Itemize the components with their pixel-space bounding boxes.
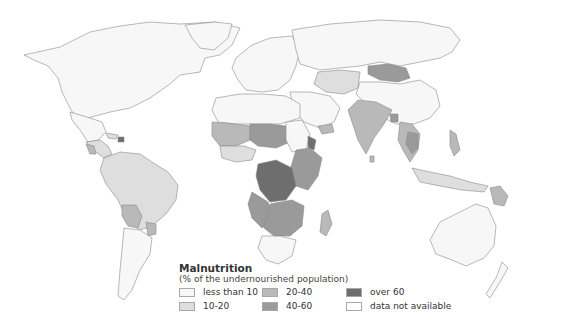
legend-swatch [346,302,362,311]
region-india [348,100,392,154]
region-papua-new-guinea [490,186,508,206]
region-indonesia [412,168,488,192]
region-central-africa [256,160,296,202]
region-haiti [118,137,124,142]
legend-items: less than 10 10-20 20-40 40-60 over 60 d… [179,287,509,327]
legend-item-20-40: 20-40 [262,287,312,297]
legend-item-40-60: 40-60 [262,301,312,311]
legend-item-10-20: 10-20 [179,301,229,311]
legend-label: over 60 [370,287,404,297]
region-australia [430,204,496,266]
region-chad-niger [250,124,290,148]
region-philippines [450,130,460,156]
region-yemen [318,124,334,134]
region-paraguay [146,222,156,236]
legend-title: Malnutrition [179,262,348,274]
region-west-africa-coast [220,146,256,162]
region-madagascar [320,210,332,236]
region-sahel [212,122,250,146]
legend-swatch [262,288,278,297]
legend-swatch [262,302,278,311]
legend-label: 20-40 [286,287,312,297]
legend-label: data not available [370,301,451,311]
region-central-asia [314,70,360,94]
legend-subtitle: (% of the undernourished population) [179,274,348,285]
region-southern-cone [118,228,152,300]
region-southern-africa [264,200,304,236]
legend-item-less-than-10: less than 10 [179,287,258,297]
legend-swatch [346,288,362,297]
region-mongolia [368,64,410,82]
legend-label: less than 10 [203,287,258,297]
region-russia [292,20,460,70]
region-bangladesh [390,114,398,122]
legend-item-over-60: over 60 [346,287,404,297]
region-sudan [286,120,310,152]
legend-label: 10-20 [203,301,229,311]
region-sri-lanka [370,156,374,162]
region-caribbean [106,133,118,139]
region-north-africa [212,94,300,124]
legend-label: 40-60 [286,301,312,311]
region-south-africa [258,236,296,264]
legend-swatch [179,288,195,297]
region-europe [232,36,300,92]
legend-item-data-not-available: data not available [346,301,451,311]
legend-swatch [179,302,195,311]
map-legend: Malnutrition (% of the undernourished po… [179,262,348,285]
